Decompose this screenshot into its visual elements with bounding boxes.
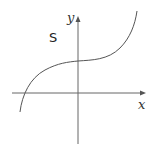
x-axis-arrow-icon	[140, 91, 146, 96]
curve-label: S	[49, 30, 57, 45]
y-axis-arrow-icon	[76, 16, 81, 22]
y-axis-label: y	[66, 10, 75, 25]
function-graph: y x S	[0, 0, 153, 147]
x-axis-label: x	[138, 97, 146, 112]
